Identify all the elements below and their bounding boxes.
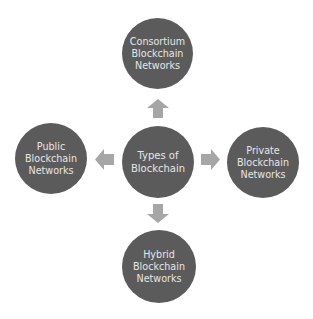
node-hybrid-label: Hybrid Blockchain Networks — [133, 249, 185, 285]
blockchain-types-diagram: Consortium Blockchain Networks Public Bl… — [0, 0, 313, 319]
node-consortium-blockchain: Consortium Blockchain Networks — [122, 18, 193, 89]
arrow-down-icon — [147, 204, 169, 223]
arrow-right-icon — [201, 149, 220, 170]
node-center-label: Types of Blockchain — [131, 149, 185, 175]
node-hybrid-blockchain: Hybrid Blockchain Networks — [122, 230, 196, 303]
node-private-blockchain: Private Blockchain Networks — [227, 127, 299, 198]
node-public-label: Public Blockchain Networks — [25, 141, 77, 177]
arrow-up-icon — [147, 99, 169, 118]
arrow-left-icon — [95, 149, 114, 170]
node-private-label: Private Blockchain Networks — [237, 145, 289, 181]
node-consortium-label: Consortium Blockchain Networks — [130, 36, 185, 72]
node-public-blockchain: Public Blockchain Networks — [15, 123, 87, 194]
node-types-of-blockchain: Types of Blockchain — [122, 126, 194, 198]
